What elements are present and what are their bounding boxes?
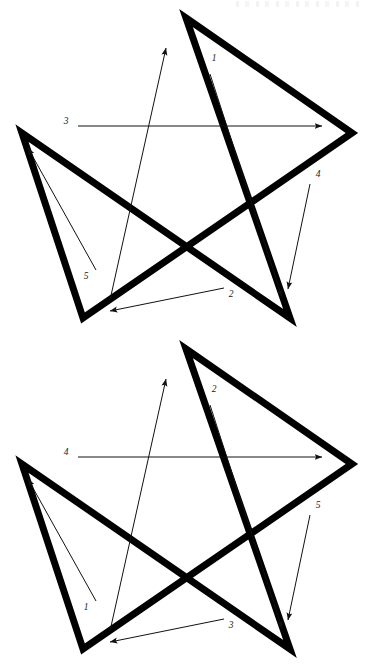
star-outline [22, 349, 352, 649]
pentagram-polygon [22, 18, 352, 318]
stroke-arrow-apex-return [110, 379, 166, 631]
pentagram-polygon [22, 349, 352, 649]
stroke-arrow-1-label: 1 [212, 53, 217, 63]
star-outline [22, 18, 352, 318]
stroke-arrow-5 [288, 515, 310, 620]
stroke-arrow-layer: 12345 [28, 48, 322, 311]
stroke-arrow-3-label: 3 [63, 116, 69, 126]
stroke-arrow-1-label: 1 [84, 602, 89, 612]
stroke-arrow-4-label: 4 [64, 447, 69, 457]
pentagram-drawing-lower: 23451 [0, 331, 370, 666]
stroke-arrow-apex-return [110, 48, 166, 300]
stroke-arrow-3-label: 3 [228, 620, 234, 630]
stroke-arrow-5-label: 5 [84, 271, 89, 281]
pentagram-drawing-upper: 12345 [0, 0, 370, 335]
stroke-arrow-4 [288, 184, 310, 289]
stroke-arrow-5-label: 5 [316, 500, 321, 510]
figure-pentagram-lower: 23451 [0, 331, 370, 666]
stroke-arrow-2-label: 2 [212, 384, 217, 394]
stroke-arrow-layer: 23451 [28, 379, 322, 642]
stroke-arrow-4-label: 4 [316, 169, 321, 179]
stroke-arrow-2-label: 2 [229, 289, 234, 299]
page-canvas: 12345 23451 [0, 0, 370, 666]
figure-pentagram-upper: 12345 [0, 0, 370, 335]
